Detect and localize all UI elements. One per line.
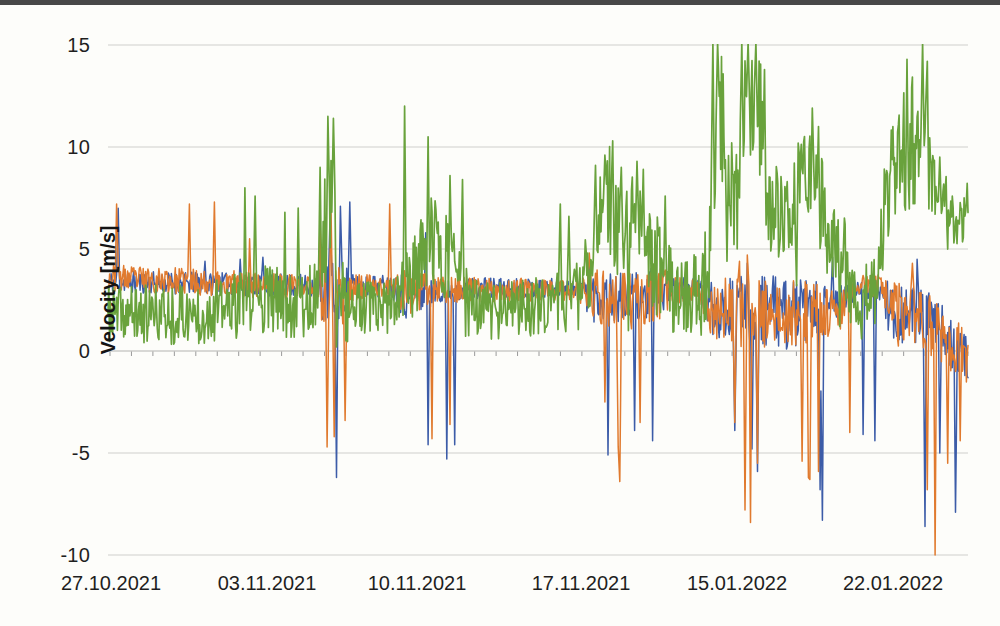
x-tick-label-2: 03.11.2021 [202, 572, 332, 595]
y-tick-label-neg5: -5 [6, 442, 90, 465]
y-axis-title: Velocity [m/s] [97, 205, 120, 375]
x-tick-label-3: 10.11.2021 [352, 572, 482, 595]
x-tick-label-5: 15.01.2022 [672, 572, 802, 595]
velocity-chart: Velocity [m/s] 15 10 5 0 -5 -10 27.10.20… [0, 0, 1000, 626]
y-tick-label-5: 5 [6, 238, 90, 261]
x-axis-ticks [110, 352, 968, 357]
y-tick-label-0: 0 [6, 340, 90, 363]
y-tick-label-15: 15 [6, 34, 90, 57]
series-line-2 [108, 43, 968, 347]
series-group [108, 43, 968, 555]
x-tick-label-4: 17.11.2021 [516, 572, 646, 595]
x-tick-label-1: 27.10.2021 [46, 572, 176, 595]
y-tick-label-10: 10 [6, 136, 90, 159]
chart-canvas [0, 0, 1000, 626]
x-tick-label-6: 22.01.2022 [828, 572, 958, 595]
y-tick-label-neg10: -10 [6, 544, 90, 567]
scanned-page: Velocity [m/s] 15 10 5 0 -5 -10 27.10.20… [0, 0, 1000, 626]
